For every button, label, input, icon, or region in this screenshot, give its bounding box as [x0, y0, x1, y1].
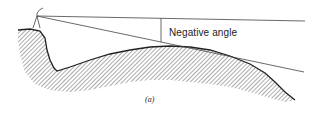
observer-point: [33, 8, 43, 28]
diagram-canvas: [0, 0, 317, 121]
angle-label: Negative angle: [169, 27, 237, 38]
horizontal-reference-line: [37, 16, 305, 21]
figure-caption: (a): [145, 95, 154, 104]
